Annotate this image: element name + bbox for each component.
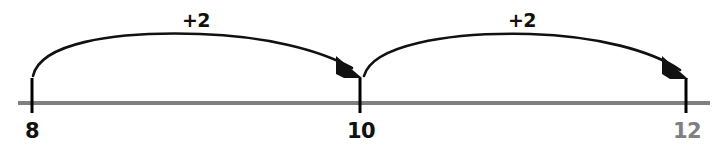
jump-arc-8-to-10 xyxy=(33,34,352,76)
jump-label-second: +2 xyxy=(508,9,536,31)
tick-label-10: 10 xyxy=(347,119,375,143)
number-line-figure: +2 +2 8 10 12 xyxy=(0,0,723,149)
jump-arrowhead-8-to-10 xyxy=(336,56,362,78)
tick-label-8: 8 xyxy=(25,119,39,143)
number-line-canvas: +2 +2 8 10 12 xyxy=(0,0,723,149)
jump-arc-10-to-12 xyxy=(364,34,680,76)
jump-label-first: +2 xyxy=(182,9,210,31)
tick-label-12: 12 xyxy=(673,119,701,143)
jump-arrowhead-10-to-12 xyxy=(662,56,688,79)
